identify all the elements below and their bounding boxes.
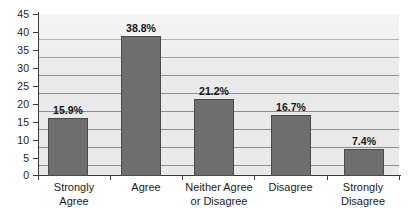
bar-value-label: 7.4% bbox=[334, 136, 394, 147]
y-tick-mark bbox=[33, 32, 38, 33]
x-axis-category-label: Agree bbox=[110, 181, 182, 195]
y-axis-tick-label: 30 bbox=[17, 63, 29, 74]
bar[interactable] bbox=[48, 118, 88, 176]
y-axis-tick-label: 5 bbox=[23, 153, 29, 164]
x-axis-category-label: Strongly Disagree bbox=[327, 181, 399, 209]
y-axis-tick-label: 15 bbox=[17, 117, 29, 128]
bar-value-label: 16.7% bbox=[261, 102, 321, 113]
y-tick-mark bbox=[33, 68, 38, 69]
y-tick-mark bbox=[33, 50, 38, 51]
y-tick-mark bbox=[33, 158, 38, 159]
gridline bbox=[38, 75, 399, 76]
y-tick-mark bbox=[33, 140, 38, 141]
x-tick-mark bbox=[399, 175, 400, 180]
x-axis-category-label: Strongly Agree bbox=[38, 181, 110, 209]
x-tick-mark bbox=[182, 175, 183, 180]
y-tick-mark bbox=[33, 14, 38, 15]
x-axis-category-label: Disagree bbox=[254, 181, 327, 195]
bar-chart: 45 40 35 30 25 20 15 10 5 0 15.9% 38.8% … bbox=[0, 0, 410, 222]
bar-value-label: 15.9% bbox=[38, 105, 98, 116]
x-tick-mark bbox=[38, 175, 39, 180]
bar-value-label: 21.2% bbox=[184, 86, 244, 97]
y-tick-mark bbox=[33, 122, 38, 123]
y-axis-tick-label: 25 bbox=[17, 81, 29, 92]
x-tick-mark bbox=[327, 175, 328, 180]
x-axis-category-label: Neither Agree or Disagree bbox=[180, 181, 258, 209]
bar[interactable] bbox=[344, 149, 384, 176]
y-axis-tick-label: 0 bbox=[23, 170, 29, 181]
bar[interactable] bbox=[271, 115, 311, 176]
y-axis-line bbox=[38, 12, 39, 177]
y-axis-tick-label: 10 bbox=[17, 135, 29, 146]
gridline bbox=[38, 39, 399, 40]
x-tick-mark bbox=[254, 175, 255, 180]
y-tick-mark bbox=[33, 86, 38, 87]
y-axis-tick-label: 40 bbox=[17, 27, 29, 38]
y-axis-tick-label: 20 bbox=[17, 99, 29, 110]
y-axis-tick-label: 35 bbox=[17, 45, 29, 56]
bar[interactable] bbox=[121, 36, 161, 176]
x-tick-mark bbox=[110, 175, 111, 180]
gridline bbox=[38, 57, 399, 58]
y-axis-tick-label: 45 bbox=[17, 9, 29, 20]
bar[interactable] bbox=[194, 99, 234, 176]
bar-value-label: 38.8% bbox=[111, 23, 171, 34]
